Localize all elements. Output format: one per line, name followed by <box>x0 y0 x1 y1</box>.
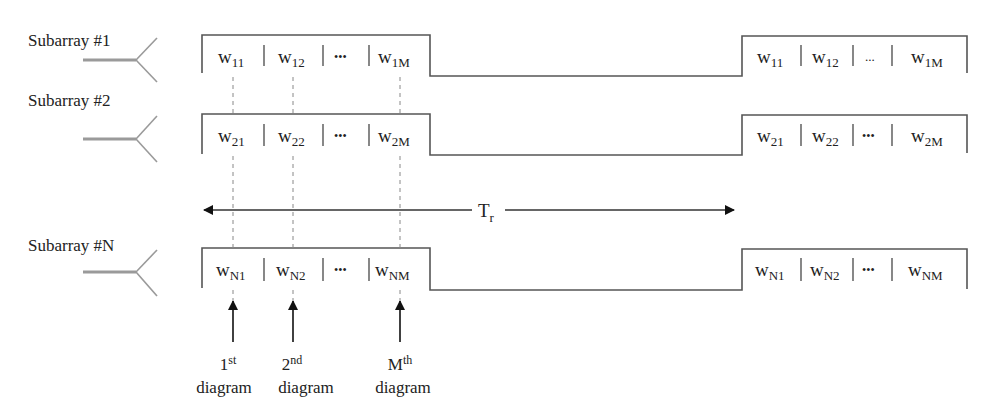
weight-cell: w21 <box>757 125 784 149</box>
diagram-word: diagram <box>278 378 334 397</box>
weight-cell: w2M <box>378 125 410 149</box>
weight-cell: wN2 <box>810 259 840 283</box>
weight-cell: wN1 <box>755 259 785 283</box>
pulse-waveform <box>202 35 967 76</box>
subarray-label: Subarray #2 <box>28 91 111 110</box>
diagram-ordinal: Mth <box>388 353 412 374</box>
weight-cell: wN2 <box>276 259 306 283</box>
ellipsis-cell: ••• <box>334 50 347 64</box>
weight-cell: wN1 <box>216 259 246 283</box>
cell-separators <box>264 258 892 281</box>
antenna-icon <box>83 250 157 296</box>
weight-cell: w11 <box>757 46 783 70</box>
ellipsis-cell: ••• <box>334 129 347 143</box>
diagram-ordinal: 2nd <box>282 353 303 374</box>
weight-cell: w12 <box>278 46 305 70</box>
diagram-word: diagram <box>196 378 252 397</box>
ellipsis-cell: ••• <box>862 129 875 143</box>
diagram-word: diagram <box>375 378 431 397</box>
pulse-waveform <box>202 248 967 290</box>
weight-cell: wNM <box>908 259 943 283</box>
weight-cell: w22 <box>278 125 305 149</box>
weight-cell: w22 <box>812 125 839 149</box>
subarray-row-2: Subarray #2 w21 w22 ••• w2M w21 w22 ••• … <box>28 91 967 162</box>
weight-cell: w21 <box>218 125 245 149</box>
subarray-row-1: Subarray #1 w11 w12 ••• w1M w11 w12 ... … <box>28 31 967 82</box>
weight-cell: w11 <box>218 46 244 70</box>
ellipsis-cell: ... <box>865 49 875 64</box>
beam-switching-timing-diagram: Subarray #1 w11 w12 ••• w1M w11 w12 ... … <box>0 0 997 415</box>
cell-separators <box>264 124 892 146</box>
diagram-labels: 1st diagram 2nd diagram Mth diagram <box>196 353 431 397</box>
diagram-pointer-arrows <box>233 301 400 342</box>
pulse-waveform <box>202 114 967 155</box>
weight-cell: w2M <box>911 125 943 149</box>
ellipsis-cell: ••• <box>862 263 875 277</box>
subarray-label: Subarray #1 <box>28 31 111 50</box>
weight-cell: w1M <box>911 46 943 70</box>
cell-separators <box>264 45 892 66</box>
diagram-ordinal: 1st <box>220 353 237 374</box>
subarray-label: Subarray #N <box>28 236 114 255</box>
weight-cell: w1M <box>378 46 410 70</box>
ellipsis-cell: ••• <box>334 263 347 277</box>
period-label: Tr <box>478 200 495 225</box>
subarray-row-n: Subarray #N wN1 wN2 ••• wNM wN1 wN2 ••• … <box>28 236 967 296</box>
antenna-icon <box>83 116 157 162</box>
weight-cell: w12 <box>812 46 839 70</box>
period-arrow: Tr <box>204 200 734 225</box>
weight-cell: wNM <box>375 259 410 283</box>
